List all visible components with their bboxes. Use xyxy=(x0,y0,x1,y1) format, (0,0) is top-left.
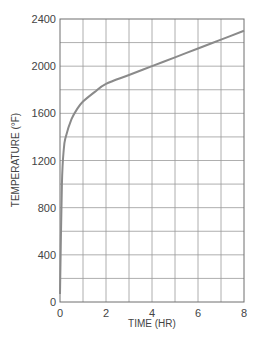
y-tick-label: 1600 xyxy=(32,107,56,119)
y-tick-label: 400 xyxy=(38,249,56,261)
grid-lines xyxy=(60,19,244,302)
y-tick-label: 800 xyxy=(38,202,56,214)
x-axis-label: TIME (HR) xyxy=(128,318,176,329)
fire-curve-chart: 04008001200160020002400 02468 TIME (HR) … xyxy=(0,0,260,348)
x-tick-label: 8 xyxy=(241,307,247,319)
y-axis-tick-labels: 04008001200160020002400 xyxy=(32,13,56,308)
x-tick-label: 2 xyxy=(103,307,109,319)
x-tick-label: 0 xyxy=(57,307,63,319)
y-tick-label: 0 xyxy=(50,296,56,308)
y-axis-label: TEMPERATURE (°F) xyxy=(10,113,21,207)
y-tick-label: 2000 xyxy=(32,60,56,72)
y-tick-label: 1200 xyxy=(32,155,56,167)
y-tick-label: 2400 xyxy=(32,13,56,25)
x-tick-label: 6 xyxy=(195,307,201,319)
